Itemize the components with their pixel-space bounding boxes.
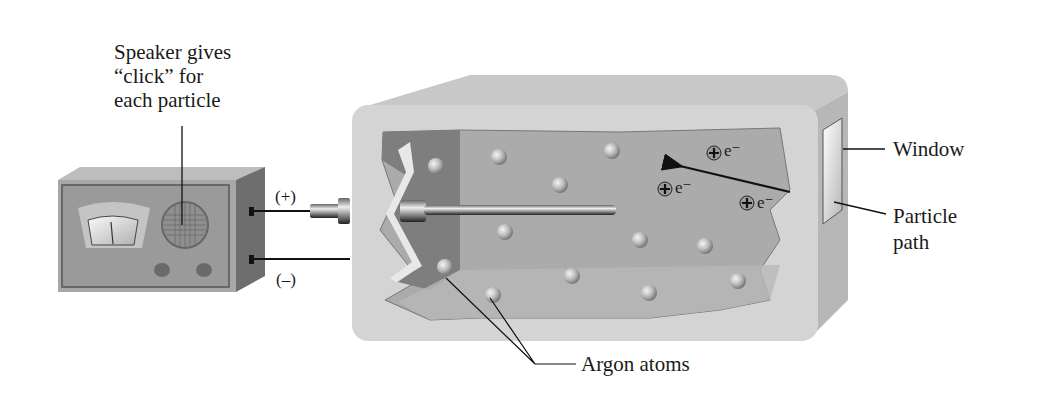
window-label: Window: [893, 137, 964, 161]
positive-terminal-label: (+): [275, 185, 296, 209]
speaker-label-line1: Speaker gives: [114, 40, 231, 64]
particle-path-label-line2: path: [893, 230, 929, 254]
negative-terminal-label: (–): [276, 268, 296, 292]
knob-left: [154, 263, 170, 277]
electron-label-2: e⁻: [675, 176, 692, 200]
knob-right: [196, 263, 212, 277]
electrode-holder: [400, 200, 426, 222]
window: [823, 118, 842, 224]
electron-label-3: e⁻: [757, 191, 774, 215]
counter-box: [58, 167, 265, 292]
argon-atoms-label: Argon atoms: [581, 352, 690, 376]
speaker-label-line3: each particle: [114, 88, 221, 112]
central-wire: [424, 205, 616, 215]
speaker-label-line2: “click” for: [114, 64, 203, 88]
electron-label-1: e⁻: [724, 139, 741, 163]
particle-path-label-line1: Particle: [893, 204, 957, 228]
geiger-tube: [352, 75, 848, 341]
